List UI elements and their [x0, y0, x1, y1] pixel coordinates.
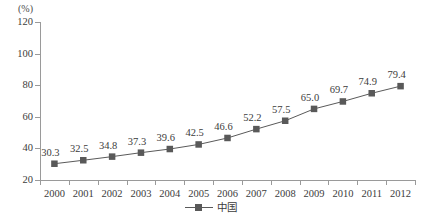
- data-point-label: 37.3: [122, 136, 152, 147]
- data-point-label: 79.4: [382, 69, 412, 80]
- data-point-label: 30.3: [35, 147, 65, 158]
- data-point-marker: [311, 106, 318, 113]
- data-point-marker: [51, 160, 58, 167]
- legend-label: 中国: [217, 202, 237, 213]
- data-point-marker: [368, 90, 375, 97]
- data-point-marker: [397, 83, 404, 90]
- data-point-marker: [253, 126, 260, 132]
- data-point-marker: [109, 153, 116, 160]
- data-point-marker: [167, 146, 174, 153]
- data-point-marker: [138, 149, 145, 156]
- data-point-marker: [340, 98, 347, 105]
- data-point-label: 39.6: [151, 132, 181, 143]
- legend-marker-icon: [185, 203, 213, 212]
- data-point-marker: [195, 141, 202, 148]
- data-point-label: 46.6: [209, 121, 239, 132]
- data-point-label: 69.7: [324, 84, 354, 95]
- data-point-label: 74.9: [353, 76, 383, 87]
- data-point-marker: [224, 135, 231, 142]
- data-point-label: 57.5: [266, 104, 296, 115]
- data-point-label: 34.8: [93, 140, 123, 151]
- data-point-label: 52.2: [237, 112, 267, 123]
- data-point-label: 65.0: [295, 92, 325, 103]
- data-point-label: 42.5: [180, 127, 210, 138]
- data-point-marker: [282, 118, 289, 125]
- line-chart: (%) 12010080604020 200020012002200320042…: [0, 0, 422, 220]
- data-point-label: 32.5: [64, 143, 94, 154]
- chart-legend: 中国: [0, 202, 422, 213]
- series-plot-area: [0, 0, 422, 220]
- data-point-marker: [80, 157, 87, 164]
